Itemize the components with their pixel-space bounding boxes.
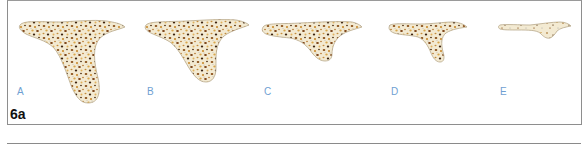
ridge-shape-e xyxy=(499,22,572,38)
stage-label-a: A xyxy=(17,86,24,98)
figure-illustration xyxy=(0,0,587,125)
ridge-shape-b xyxy=(145,20,249,82)
ridge-shape-a xyxy=(19,20,125,103)
stage-label-b: B xyxy=(147,86,154,98)
next-figure-panel-edge xyxy=(7,143,581,145)
stage-label-e: E xyxy=(500,86,507,98)
stage-label-d: D xyxy=(391,86,398,98)
stage-label-c: C xyxy=(264,86,271,98)
ridge-shape-c xyxy=(262,22,362,61)
ridge-shape-d xyxy=(389,22,467,62)
figure-id-label: 6a xyxy=(10,106,26,122)
